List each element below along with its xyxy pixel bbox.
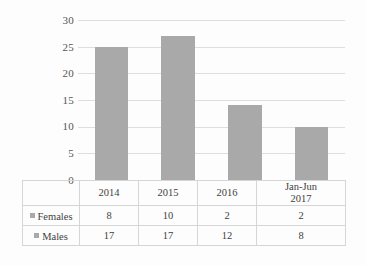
- cell-males-jan-jun-2017: 8: [257, 226, 346, 246]
- plot-area: [78, 20, 345, 180]
- bar-2015[interactable]: [161, 36, 194, 180]
- bars-layer: [78, 20, 345, 180]
- cell-females-2016: 2: [198, 206, 257, 226]
- cell-females-jan-jun-2017: 2: [257, 206, 346, 226]
- y-axis: 30 25 20 15 10 5 0: [44, 0, 74, 186]
- y-axis-tick-label: 30: [44, 15, 74, 26]
- bar-slot: [278, 20, 345, 180]
- bar-jan-jun-2017[interactable]: [295, 127, 328, 180]
- category-header-line-2: 2017: [257, 193, 345, 205]
- legend-item-females[interactable]: Females: [23, 206, 80, 226]
- data-table: 2014 2015 2016 Jan-Jun 2017 Females 8 10…: [22, 180, 346, 246]
- plot-block: 30 25 20 15 10 5 0: [0, 0, 366, 186]
- category-header-2014: 2014: [80, 181, 139, 206]
- y-axis-tick-label: 10: [44, 121, 74, 132]
- y-axis-tick-label: 15: [44, 95, 74, 106]
- bar-slot: [212, 20, 279, 180]
- bar-slot: [145, 20, 212, 180]
- legend-swatch-icon: [30, 213, 35, 218]
- category-header-2015: 2015: [139, 181, 198, 206]
- category-header-jan-jun-2017: Jan-Jun 2017: [257, 181, 346, 206]
- y-axis-tick-label: 5: [44, 148, 74, 159]
- table-corner-cell: [23, 181, 80, 206]
- y-axis-tick-label: 20: [44, 68, 74, 79]
- table-row-categories: 2014 2015 2016 Jan-Jun 2017: [23, 181, 346, 206]
- cell-males-2016: 12: [198, 226, 257, 246]
- table-row-males: Males 17 17 12 8: [23, 226, 346, 246]
- legend-swatch-icon: [34, 233, 39, 238]
- legend-item-males[interactable]: Males: [23, 226, 80, 246]
- cell-females-2015: 10: [139, 206, 198, 226]
- bar-2016[interactable]: [228, 105, 261, 180]
- category-header-2016: 2016: [198, 181, 257, 206]
- bar-2014[interactable]: [95, 47, 128, 180]
- cell-females-2014: 8: [80, 206, 139, 226]
- category-header-line-1: Jan-Jun: [257, 181, 345, 193]
- bar-slot: [78, 20, 145, 180]
- legend-label-males: Males: [42, 231, 68, 242]
- y-axis-tick-label: 25: [44, 42, 74, 53]
- legend-label-females: Females: [38, 211, 73, 222]
- cell-males-2014: 17: [80, 226, 139, 246]
- bar-chart-with-data-table: 30 25 20 15 10 5 0: [0, 0, 366, 265]
- cell-males-2015: 17: [139, 226, 198, 246]
- table-row-females: Females 8 10 2 2: [23, 206, 346, 226]
